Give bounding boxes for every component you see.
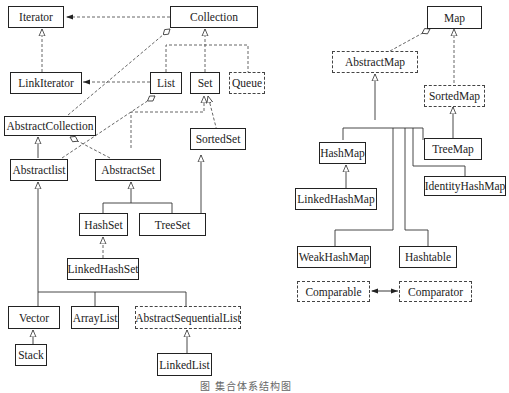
node-abstract-map: AbstractMap xyxy=(332,51,418,73)
node-hash-set: HashSet xyxy=(79,213,128,236)
node-hash-map: HashMap xyxy=(319,142,366,164)
figure-caption: 图 集合体系结构图 xyxy=(200,378,292,393)
node-comparable: Comparable xyxy=(297,281,370,302)
node-vector: Vector xyxy=(8,306,60,329)
node-link-iterator: LinkIterator xyxy=(10,72,82,94)
node-comparator: Comparator xyxy=(399,281,472,302)
node-set: Set xyxy=(190,72,220,94)
node-tree-map: TreeMap xyxy=(424,138,482,160)
node-hashtable: Hashtable xyxy=(399,246,457,268)
node-abstract-sequential-list: AbstractSequentialList xyxy=(135,306,241,329)
node-identity-hash-map: IdentityHashMap xyxy=(424,176,506,196)
node-abstract-set: AbstractSet xyxy=(95,159,161,181)
node-abstract-collection: AbstractCollection xyxy=(4,116,96,136)
node-collection: Collection xyxy=(170,6,258,28)
node-stack: Stack xyxy=(15,344,47,366)
node-tree-set: TreeSet xyxy=(139,213,206,236)
node-sorted-map: SortedMap xyxy=(424,85,485,107)
node-iterator: Iterator xyxy=(8,6,64,28)
node-array-list: ArrayList xyxy=(71,306,119,329)
node-weak-hash-map: WeakHashMap xyxy=(297,246,371,268)
node-list: List xyxy=(150,72,182,94)
node-abstract-list: Abstractlist xyxy=(10,159,68,181)
node-queue: Queue xyxy=(229,72,265,94)
node-linked-hash-set: LinkedHashSet xyxy=(67,258,139,280)
node-map: Map xyxy=(427,6,482,29)
node-linked-list: LinkedList xyxy=(157,353,212,376)
node-sorted-set: SortedSet xyxy=(190,128,246,150)
node-linked-hash-map: LinkedHashMap xyxy=(295,188,377,210)
